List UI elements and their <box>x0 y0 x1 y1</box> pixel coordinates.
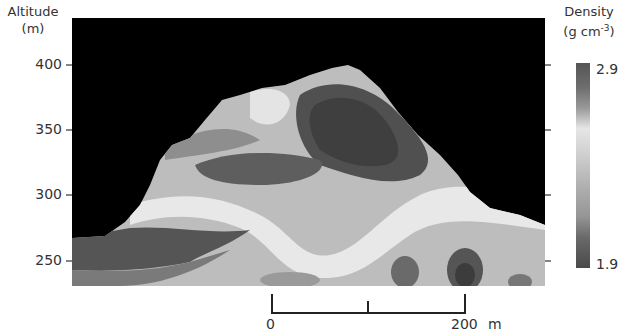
scale-bar <box>272 294 465 313</box>
left-ticks <box>66 65 72 261</box>
scale-bar-end-label: 200 <box>451 316 478 332</box>
density-section-plot <box>0 0 622 334</box>
colorbar-title-line1: Density <box>556 3 622 20</box>
colorbar-min-label: 1.9 <box>596 256 618 272</box>
scale-bar-unit: m <box>488 316 502 332</box>
colorbar-max-label: 2.9 <box>596 61 618 77</box>
scale-bar-start-label: 0 <box>266 316 275 332</box>
colorbar <box>576 63 590 268</box>
colorbar-title: Density (g cm-3) <box>556 3 622 40</box>
colorbar-title-line2: (g cm-3) <box>556 20 622 40</box>
right-ticks <box>545 65 551 261</box>
